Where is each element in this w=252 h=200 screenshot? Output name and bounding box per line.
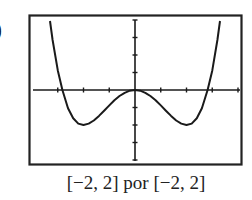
viewing-window-caption: [−2, 2] por [−2, 2] — [0, 172, 252, 194]
calculator-graph-screen — [0, 0, 252, 170]
